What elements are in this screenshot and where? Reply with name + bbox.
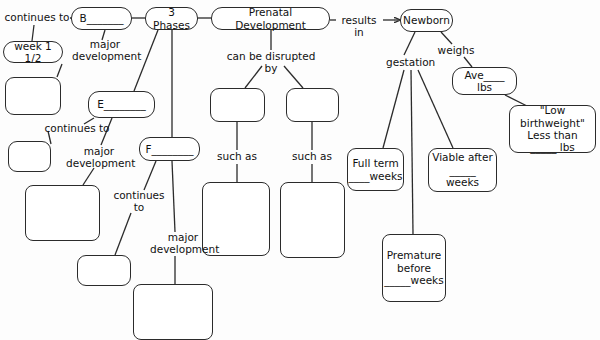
node-blank_left_4[interactable] <box>77 255 131 286</box>
node-label-ave_lbs: Ave____ lbs <box>456 69 513 94</box>
node-label-newborn: Newborn <box>403 14 450 26</box>
node-label-three_phases: 3 Phases <box>149 6 194 31</box>
node-blank_left_5[interactable] <box>133 284 213 340</box>
node-label-node_e: E________ <box>97 98 146 110</box>
node-label-viable_after: Viable after _____ weeks <box>432 151 493 188</box>
edge-label-major_development_2: major development <box>66 145 132 169</box>
node-premature[interactable]: Premature before _____weeks <box>382 234 446 302</box>
node-blank_mid_4[interactable] <box>280 182 345 258</box>
edge-label-results_in: results in <box>335 14 383 38</box>
edge-label-can_be_disrupted_by: can be disrupted by <box>219 50 323 74</box>
node-label-prenatal_development: Prenatal Development <box>215 6 326 31</box>
node-label-low_birthweight: "Low birthweight" Less than _____ lbs <box>513 104 592 154</box>
edge-week1-to-blank <box>57 64 62 77</box>
edge-gestation-to-viable <box>418 70 453 148</box>
edge-continues-3-to-blank <box>115 213 131 255</box>
edge-label-continues_to_2: continues to <box>44 122 110 134</box>
node-three_phases[interactable]: 3 Phases <box>145 7 198 30</box>
node-blank_left_2[interactable] <box>8 141 51 172</box>
node-label-node_f: F________ <box>145 143 193 155</box>
edge-newborn-to-gestation <box>404 32 415 55</box>
edge-f-to-major-3 <box>172 161 175 232</box>
node-low_birthweight[interactable]: "Low birthweight" Less than _____ lbs <box>509 105 596 153</box>
edge-major-2-to-blank <box>83 168 94 185</box>
node-newborn[interactable]: Newborn <box>400 9 453 32</box>
node-label-node_b: B_______ <box>80 12 124 24</box>
node-node_f[interactable]: F________ <box>139 137 200 161</box>
node-ave_lbs[interactable]: Ave____ lbs <box>452 67 517 95</box>
node-full_term[interactable]: Full term ____weeks <box>347 148 404 191</box>
edge-weighs-to-ave <box>464 57 472 67</box>
edge-f-to-continues-3 <box>144 161 156 190</box>
edge-gestation-to-premature <box>411 70 413 234</box>
edge-label-major_development_3: major development <box>150 231 216 255</box>
node-label-full_term: Full term ____weeks <box>348 157 402 182</box>
node-blank_mid_1[interactable] <box>210 88 265 122</box>
edge-gestation-to-fullterm <box>383 70 404 148</box>
node-node_e[interactable]: E________ <box>88 91 155 118</box>
node-prenatal_development[interactable]: Prenatal Development <box>211 7 330 30</box>
edge-label-continues_to_3: continues to <box>110 189 168 213</box>
edge-label-such_as_2: such as <box>291 150 333 162</box>
node-blank_mid_2[interactable] <box>286 88 339 122</box>
edge-label-continues_to_1: continues to <box>4 11 70 23</box>
node-node_b[interactable]: B_______ <box>71 7 132 30</box>
edge-label-weighs: weighs <box>437 44 475 56</box>
node-blank_left_3[interactable] <box>25 185 100 241</box>
edge-continues-to-1-to-week1 <box>32 25 34 41</box>
edge-label-such_as_1: such as <box>216 150 258 162</box>
node-label-week1: week 1 1/2 <box>7 40 59 65</box>
concept-map-canvas: week 1 1/2B_______E________F________3 Ph… <box>0 0 600 340</box>
edge-newborn-to-weighs <box>441 32 452 44</box>
node-week1[interactable]: week 1 1/2 <box>3 41 63 63</box>
node-blank_left_1[interactable] <box>5 77 61 115</box>
edge-label-gestation: gestation <box>386 56 434 68</box>
edge-label-major_development_1: major development <box>72 38 138 62</box>
node-viable_after[interactable]: Viable after _____ weeks <box>428 148 497 192</box>
node-label-premature: Premature before _____weeks <box>384 249 443 286</box>
